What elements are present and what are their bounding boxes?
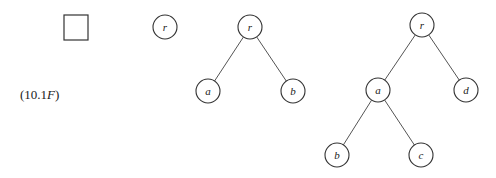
node-label: a: [375, 84, 381, 96]
empty-tree-square: [64, 15, 88, 40]
three-node-tree: rab: [196, 15, 305, 103]
single-node-tree: r: [153, 15, 177, 39]
node-label: r: [420, 19, 425, 31]
node-label: a: [205, 85, 211, 97]
node-label: b: [334, 149, 340, 161]
node-label: d: [463, 84, 469, 96]
equation-label: (10.1F): [20, 87, 59, 103]
tree-edge: [385, 35, 416, 80]
tree-edge: [429, 35, 460, 80]
node-label: r: [248, 21, 253, 33]
tree-edge: [385, 100, 415, 145]
node-label: c: [419, 149, 424, 161]
five-node-tree: radbc: [325, 13, 478, 167]
tree-diagrams: rrabradbc: [0, 0, 496, 178]
node-label: b: [290, 85, 296, 97]
tree-edge: [215, 37, 244, 81]
node-label: r: [163, 21, 168, 33]
tree-edge: [257, 37, 287, 81]
tree-edge: [343, 100, 371, 145]
